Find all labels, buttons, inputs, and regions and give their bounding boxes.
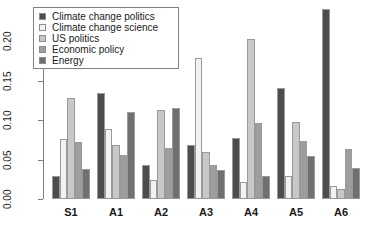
bar: [202, 152, 210, 199]
bar: [165, 148, 173, 199]
x-axis-label-a2: A2: [141, 206, 181, 218]
bar: [292, 122, 300, 199]
legend-item: Climate change politics: [39, 11, 174, 22]
bar: [217, 170, 225, 199]
bar: [97, 93, 105, 199]
bar: [150, 180, 158, 199]
bar: [120, 155, 128, 199]
bar: [300, 141, 308, 199]
bar: [82, 169, 90, 199]
bar: [307, 156, 315, 199]
bar: [322, 9, 330, 199]
bar: [112, 145, 120, 199]
bar: [157, 110, 165, 199]
bar: [240, 182, 248, 199]
bar: [60, 139, 68, 199]
y-axis-tick-label: 0.20: [2, 24, 36, 58]
y-axis-tick: [38, 120, 43, 121]
bar: [67, 98, 75, 199]
legend-item: Economic policy: [39, 44, 174, 55]
legend-item: US politics: [39, 33, 174, 44]
y-axis-tick-label: 0.00: [2, 182, 36, 216]
bar: [337, 189, 345, 199]
legend-item: Energy: [39, 55, 174, 66]
bar: [105, 129, 113, 199]
bar: [352, 168, 360, 199]
legend-swatch-icon: [39, 35, 46, 42]
bar: [330, 186, 338, 199]
x-axis-label-a1: A1: [96, 206, 136, 218]
bar: [262, 176, 270, 199]
x-axis-label-a6: A6: [321, 206, 361, 218]
bar: [195, 58, 203, 199]
chart-legend: Climate change politicsClimate change sc…: [33, 7, 179, 69]
y-axis-tick-label: 0.15: [2, 64, 36, 98]
bar: [52, 176, 60, 199]
bar: [285, 176, 293, 199]
bar: [127, 112, 135, 199]
bar: [277, 88, 285, 199]
bar: [247, 39, 255, 199]
legend-swatch-icon: [39, 24, 46, 31]
legend-swatch-icon: [39, 46, 46, 53]
bar: [232, 138, 240, 199]
bar: [345, 149, 353, 199]
y-axis-tick: [38, 81, 43, 82]
x-axis-label-a3: A3: [186, 206, 226, 218]
bar-chart: 0.000.050.100.150.20 S1A1A2A3A4A5A6 Clim…: [0, 0, 381, 241]
legend-label: US politics: [52, 33, 99, 44]
y-axis-tick-label: 0.10: [2, 103, 36, 137]
legend-swatch-icon: [39, 57, 46, 64]
bar: [187, 145, 195, 199]
y-axis-tick: [38, 160, 43, 161]
bar: [210, 165, 218, 199]
legend-label: Climate change politics: [52, 11, 155, 22]
legend-item: Climate change science: [39, 22, 174, 33]
legend-label: Energy: [52, 55, 84, 66]
bar: [255, 123, 263, 199]
y-axis-tick: [38, 199, 43, 200]
bar: [75, 142, 83, 199]
x-axis-label-a5: A5: [276, 206, 316, 218]
y-axis-tick-label: 0.05: [2, 143, 36, 177]
bar: [172, 108, 180, 199]
x-axis-label-a4: A4: [231, 206, 271, 218]
legend-label: Economic policy: [52, 44, 124, 55]
bar: [142, 165, 150, 199]
legend-swatch-icon: [39, 13, 46, 20]
x-axis-label-s1: S1: [51, 206, 91, 218]
legend-label: Climate change science: [52, 22, 158, 33]
